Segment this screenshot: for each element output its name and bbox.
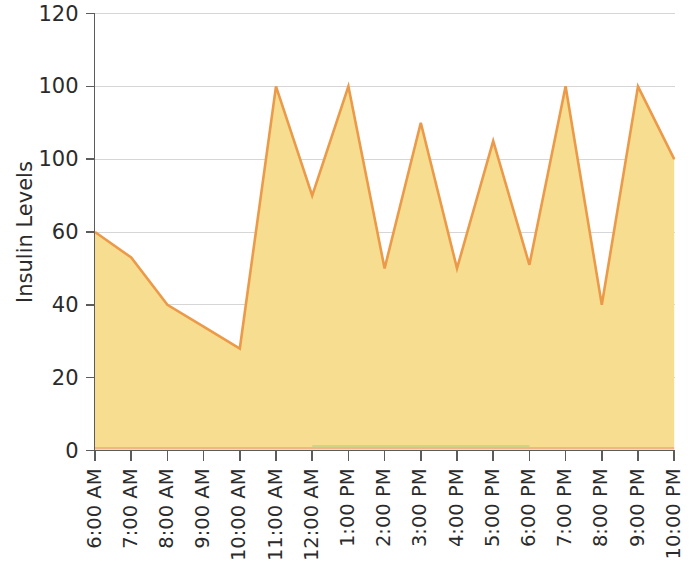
y-axis-title: Insulin Levels [13,161,37,303]
y-axis-tick-label: 100 [38,147,78,171]
x-axis-tick-label: 8:00 AM [155,469,178,549]
y-axis-tick-label: 60 [52,220,79,244]
x-axis-tick-label: 6:00 PM [517,469,540,548]
x-axis-tick-label: 12:00 AM [300,469,323,562]
insulin-levels-area-chart: 1201001006040200 6:00 AM7:00 AM8:00 AM9:… [0,0,693,564]
x-axis-tick-label: 1:00 PM [336,469,359,548]
x-axis-tick-label: 8:00 PM [589,469,612,548]
x-axis-tick-label: 10:00 AM [227,469,250,562]
x-axis-tick-label: 11:00 AM [264,469,287,562]
y-axis-tick-label: 20 [52,366,79,390]
y-axis-tick-label: 40 [52,293,79,317]
x-axis-tick-label: 7:00 AM [119,469,142,549]
x-axis-tick-label: 5:00 PM [481,469,504,548]
y-axis-tick-label: 0 [65,439,78,463]
x-axis-tick-label: 4:00 PM [445,469,468,548]
x-axis-tick-label: 7:00 PM [553,469,576,548]
y-axis-tick-label: 120 [38,2,78,26]
x-axis-tick-label: 3:00 PM [408,469,431,548]
x-axis-tick-label: 6:00 AM [83,469,106,549]
x-axis-tick-label: 2:00 PM [372,469,395,548]
chart-container: 1201001006040200 6:00 AM7:00 AM8:00 AM9:… [0,0,693,564]
x-axis-tick-label: 9:00 PM [626,469,649,548]
y-axis-tick-label: 100 [38,74,78,98]
x-axis-tick-label: 10:00 PM [662,469,685,560]
x-axis-tick-label: 9:00 AM [191,469,214,549]
